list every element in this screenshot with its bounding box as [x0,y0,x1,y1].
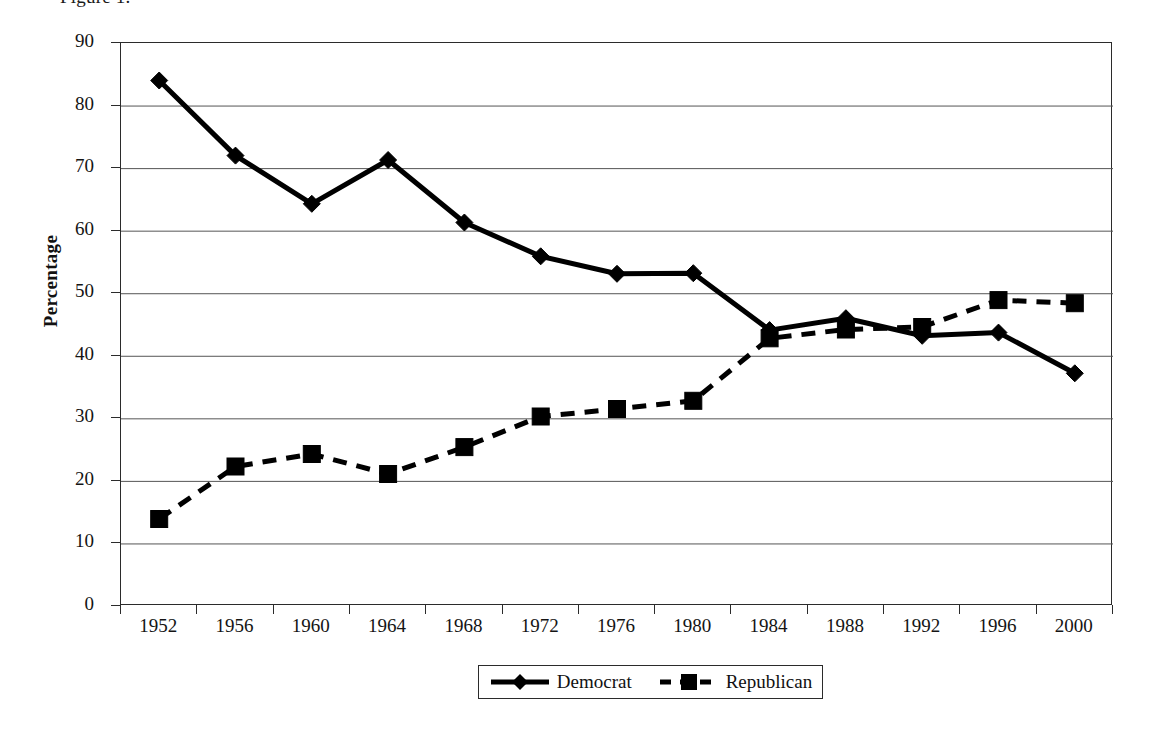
legend-item-democrat: Democrat [489,671,632,693]
x-axis-tick-mark [883,605,884,614]
x-axis-tick-mark [349,605,350,614]
x-axis-tick-mark [425,605,426,614]
x-axis-tick-label: 1960 [271,615,351,637]
data-point-marker [685,392,702,409]
y-axis-tick-label: 10 [34,531,94,550]
data-point-marker [761,330,778,347]
figure-caption: Figure 1. [60,0,130,8]
y-axis-tick-label: 80 [34,94,94,113]
x-axis-tick-mark [502,605,503,614]
x-axis-tick-label: 1956 [194,615,274,637]
data-point-marker [609,265,626,282]
x-axis-tick-label: 1968 [423,615,503,637]
x-axis-tick-label: 1980 [652,615,732,637]
x-axis-tick-mark [578,605,579,614]
y-axis-tick-label: 70 [34,156,94,175]
x-axis-tick-label: 1976 [576,615,656,637]
x-axis-tick-label: 1992 [881,615,961,637]
x-axis-tick-label: 2000 [1034,615,1114,637]
plot-area [120,42,1112,605]
data-point-marker [303,446,320,463]
x-axis-tick-mark [730,605,731,614]
data-point-marker [990,292,1007,309]
chart-legend: DemocratRepublican [478,665,823,699]
data-point-marker [532,408,549,425]
x-axis-tick-mark [1036,605,1037,614]
data-point-marker [227,458,244,475]
chart-page: Figure 1. Percentage 0102030405060708090… [0,0,1153,747]
x-axis-tick-label: 1988 [805,615,885,637]
x-axis-tick-mark [273,605,274,614]
solid-line-diamond-icon [489,673,551,691]
x-axis-tick-mark [120,605,121,614]
y-axis-tick-label: 50 [34,281,94,300]
x-axis-tick-mark [654,605,655,614]
x-axis-tick-label: 1952 [118,615,198,637]
y-axis-tick-label: 90 [34,31,94,50]
data-point-marker [837,321,854,338]
x-axis-tick-mark [959,605,960,614]
series-line-democrat [159,81,1075,374]
y-axis-tick-label: 30 [34,406,94,425]
y-axis-tick-label: 60 [34,219,94,238]
x-axis-tick-label: 1996 [958,615,1038,637]
y-axis-tick-label: 40 [34,344,94,363]
y-axis-tick-label: 0 [34,594,94,613]
data-point-marker [1066,295,1083,312]
y-axis-tick-label: 20 [34,469,94,488]
x-axis-tick-mark [807,605,808,614]
dashed-line-square-icon [658,673,720,691]
data-point-marker [151,511,168,528]
data-point-marker [456,439,473,456]
data-point-marker [532,248,549,265]
series-canvas [121,43,1113,606]
x-axis-tick-mark [1112,605,1113,614]
x-axis-tick-label: 1972 [500,615,580,637]
data-point-marker [914,319,931,336]
data-point-marker [609,401,626,418]
legend-item-republican: Republican [658,671,813,693]
x-axis-tick-mark [196,605,197,614]
x-axis-tick-label: 1964 [347,615,427,637]
legend-label: Republican [726,671,813,693]
legend-label: Democrat [557,671,632,693]
x-axis-tick-label: 1984 [729,615,809,637]
data-point-marker [380,466,397,483]
